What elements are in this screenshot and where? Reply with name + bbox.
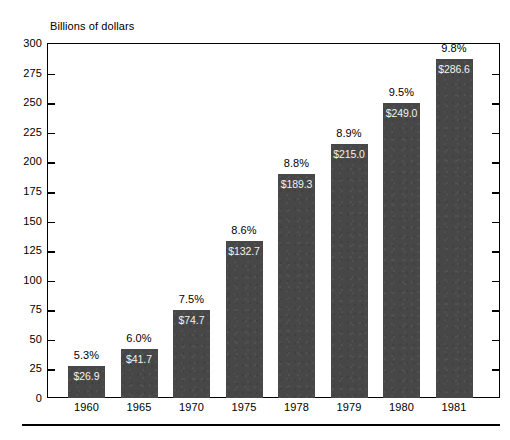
- bar-value-label: $249.0: [383, 107, 420, 119]
- bar-percent-annotation: 9.5%: [377, 86, 426, 98]
- bar-rect: $249.0: [383, 103, 420, 398]
- x-tick-label: 1979: [325, 401, 374, 413]
- bar-rect: $132.7: [226, 241, 263, 398]
- bar-percent-annotation: 6.0%: [115, 332, 164, 344]
- bar-percent-annotation: 8.8%: [272, 157, 321, 169]
- bar-chart-figure: Billions of dollars 30027525022520017515…: [0, 0, 510, 440]
- x-tick-label: 1978: [272, 401, 321, 413]
- y-tick-label: 25: [0, 362, 42, 374]
- y-tick-label: 250: [0, 96, 42, 108]
- bar-rect: $215.0: [331, 144, 368, 398]
- y-tick-label: 100: [0, 274, 42, 286]
- bar-value-label: $215.0: [331, 148, 368, 160]
- bar-percent-annotation: 5.3%: [62, 349, 111, 361]
- bar-rect: $74.7: [173, 310, 210, 398]
- bar-percent-annotation: 8.9%: [325, 127, 374, 139]
- footer-divider: [22, 424, 500, 426]
- x-tick-label: 1960: [62, 401, 111, 413]
- bar-rect: $286.6: [436, 59, 473, 398]
- y-tick-label: 225: [0, 126, 42, 138]
- y-tick-label: 200: [0, 155, 42, 167]
- y-tick-label: 300: [0, 37, 42, 49]
- y-tick-label: 150: [0, 215, 42, 227]
- bar-group: 8.8%$189.3: [278, 43, 315, 398]
- bar-group: 8.6%$132.7: [226, 43, 263, 398]
- bar-percent-annotation: 9.8%: [430, 42, 479, 54]
- y-tick-label: 275: [0, 67, 42, 79]
- bar-group: 9.8%$286.6: [436, 43, 473, 398]
- bar-value-label: $286.6: [436, 63, 473, 75]
- x-axis-tick-labels: 19601965197019751978197919801981: [47, 401, 500, 419]
- x-tick-label: 1980: [377, 401, 426, 413]
- bar-percent-annotation: 8.6%: [220, 224, 269, 236]
- x-tick-label: 1965: [115, 401, 164, 413]
- y-tick-label: 50: [0, 333, 42, 345]
- y-tick-label: 75: [0, 303, 42, 315]
- y-axis-tick-labels: 3002752502252001751501251007550250: [0, 43, 42, 398]
- bar-value-label: $74.7: [173, 314, 210, 326]
- bar-value-label: $132.7: [226, 245, 263, 257]
- bar-group: 8.9%$215.0: [331, 43, 368, 398]
- bar-rect: $26.9: [68, 366, 105, 398]
- y-axis-title: Billions of dollars: [50, 20, 134, 32]
- y-tick-label: 125: [0, 244, 42, 256]
- bar-value-label: $189.3: [278, 178, 315, 190]
- y-tick-label: 175: [0, 185, 42, 197]
- x-tick-label: 1981: [430, 401, 479, 413]
- y-tick-label: 0: [0, 392, 42, 404]
- bars-layer: 5.3%$26.96.0%$41.77.5%$74.78.6%$132.78.8…: [47, 43, 500, 398]
- bar-percent-annotation: 7.5%: [167, 293, 216, 305]
- bar-group: 6.0%$41.7: [121, 43, 158, 398]
- bar-group: 9.5%$249.0: [383, 43, 420, 398]
- bar-value-label: $26.9: [68, 370, 105, 382]
- x-tick-label: 1970: [167, 401, 216, 413]
- bar-group: 7.5%$74.7: [173, 43, 210, 398]
- bar-group: 5.3%$26.9: [68, 43, 105, 398]
- bar-rect: $41.7: [121, 349, 158, 398]
- bar-value-label: $41.7: [121, 353, 158, 365]
- bar-rect: $189.3: [278, 174, 315, 398]
- x-tick-label: 1975: [220, 401, 269, 413]
